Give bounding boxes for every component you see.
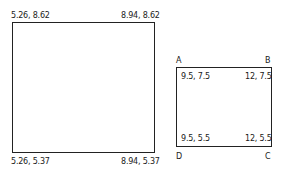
vertex-c-label: C xyxy=(265,152,271,161)
small-top-left-coord: 9.5, 7.5 xyxy=(181,72,210,81)
small-bottom-right-coord: 12, 5.5 xyxy=(245,134,272,143)
large-top-right-coord: 8.94, 8.62 xyxy=(121,11,160,20)
vertex-a-label: A xyxy=(176,56,181,65)
vertex-b-label: B xyxy=(265,56,271,65)
small-top-right-coord: 12, 7.5 xyxy=(245,72,272,81)
vertex-d-label: D xyxy=(176,152,182,161)
large-bottom-left-coord: 5.26, 5.37 xyxy=(11,157,50,166)
large-top-left-coord: 5.26, 8.62 xyxy=(11,11,50,20)
large-rectangle xyxy=(12,22,155,153)
large-bottom-right-coord: 8.94, 5.37 xyxy=(121,157,160,166)
small-bottom-left-coord: 9.5, 5.5 xyxy=(181,134,210,143)
